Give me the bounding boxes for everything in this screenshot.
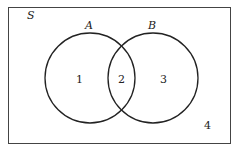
region-1-label: 1	[76, 73, 83, 86]
region-2-label: 2	[118, 73, 125, 86]
set-a-label: A	[84, 19, 93, 32]
region-4-label: 4	[204, 119, 211, 132]
region-3-label: 3	[160, 73, 167, 86]
universe-label: S	[27, 9, 35, 22]
venn-diagram: S A B 1 2 3 4	[0, 0, 236, 150]
set-b-label: B	[147, 19, 156, 32]
